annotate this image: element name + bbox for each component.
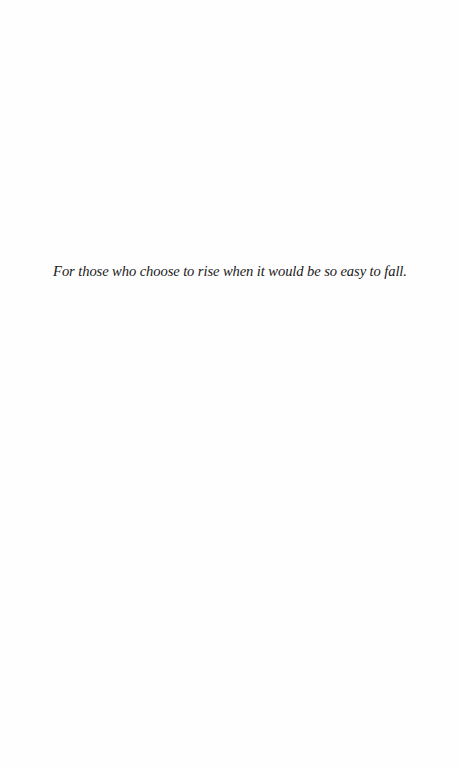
- book-page: For those who choose to rise when it wou…: [0, 0, 460, 768]
- dedication-text: For those who choose to rise when it wou…: [0, 262, 460, 280]
